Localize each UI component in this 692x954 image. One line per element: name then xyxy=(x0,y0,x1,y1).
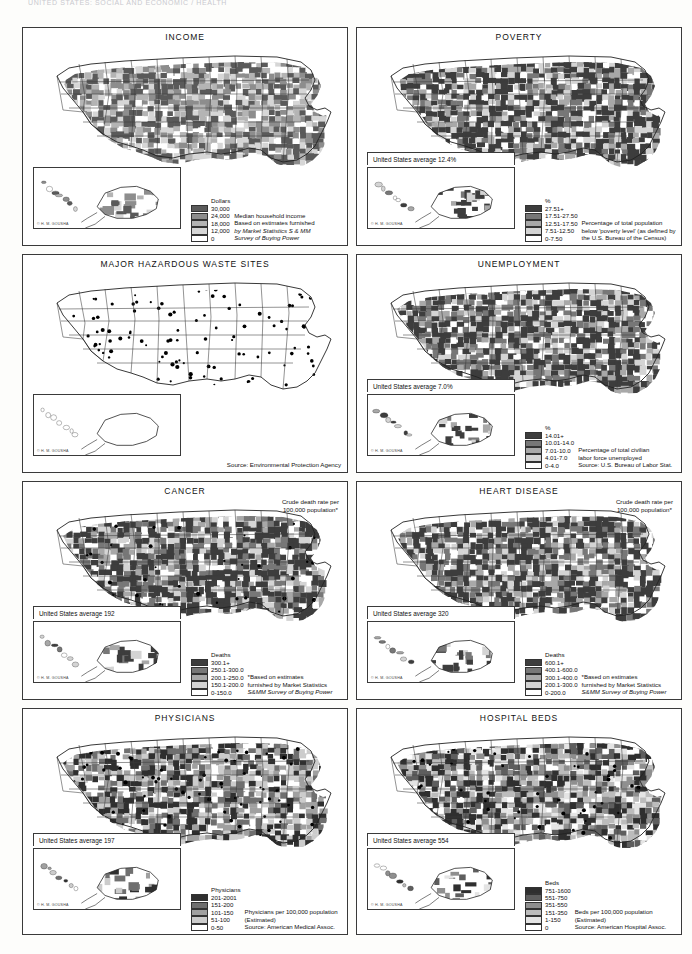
legend-row: 24,000 xyxy=(191,212,230,219)
map-canvas[interactable]: © H. M. GOUSHA xyxy=(23,269,347,472)
legend-class-label: 600.1+ xyxy=(545,659,564,666)
copyright-mark: © H. M. GOUSHA xyxy=(37,449,69,453)
legend-swatch xyxy=(525,924,542,931)
page-header: UNITED STATES: SOCIAL AND ECONOMIC / HEA… xyxy=(28,0,227,9)
legend-swatch xyxy=(525,916,542,923)
legend-rows: 600.1+400.1-600.0300.1-400.0200.1-300.00… xyxy=(525,659,578,696)
legend-class-label: 12.51-17.50 xyxy=(545,220,578,227)
panel-title-income: INCOME xyxy=(23,32,347,42)
alaska-hawaii-inset: © H. M. GOUSHA xyxy=(33,621,181,683)
legend-swatch xyxy=(191,205,208,212)
inset-map-graphic xyxy=(368,395,514,455)
map-panel-hospital-beds[interactable]: HOSPITAL BEDS United States average 554 xyxy=(356,708,682,935)
legend-swatch xyxy=(525,674,542,681)
legend-swatch xyxy=(525,227,542,234)
legend-swatch xyxy=(191,909,208,916)
map-panel-income[interactable]: INCOME © H. M. GO xyxy=(22,27,348,246)
legend-swatch xyxy=(191,902,208,909)
legend-row: 351-550 xyxy=(525,901,571,908)
legend-description: *Based on estimatesfurnished by Market S… xyxy=(582,673,667,696)
legend-swatch xyxy=(525,667,542,674)
map-legend: Physicians 201-2001151-200101-15051-1000… xyxy=(191,886,338,931)
legend-swatch xyxy=(525,447,542,454)
legend-class-label: 7.01-10.0 xyxy=(545,447,571,454)
legend-row: 12,000 xyxy=(191,227,230,234)
legend-description: Physicians per 100,000 population(Estima… xyxy=(245,908,338,931)
legend-class-label: 24,000 xyxy=(211,212,230,219)
legend-row: 17.51-27.50 xyxy=(525,212,578,219)
legend-class-label: 0 xyxy=(211,235,214,242)
legend-swatch xyxy=(525,454,542,461)
legend-row: 0 xyxy=(191,235,230,242)
panel-title-unemployment: UNEMPLOYMENT xyxy=(357,259,681,269)
legend-class-label: 0 xyxy=(545,924,548,931)
legend-swatch-column: % 14.01+10.01-14.07.01-10.04.01-7.00-4.0 xyxy=(525,424,574,469)
panel-source-note: Source: Environmental Protection Agency xyxy=(227,461,341,468)
legend-class-label: 0-50 xyxy=(211,924,223,931)
legend-description: Beds per 100,000 population(Estimated)So… xyxy=(575,908,666,931)
us-lower48-map xyxy=(33,271,333,403)
legend-row: 14.01+ xyxy=(525,432,574,439)
legend-rows: 27.51+17.51-27.5012.51-17.507.51-12.500-… xyxy=(525,205,578,242)
legend-class-label: 4.01-7.0 xyxy=(545,454,567,461)
legend-unit-label: % xyxy=(525,424,574,431)
legend-unit-label: % xyxy=(525,197,578,204)
legend-row: 400.1-600.0 xyxy=(525,666,578,673)
us-average-label: United States average 12.4% xyxy=(367,152,515,165)
legend-row: 0-50 xyxy=(191,924,241,931)
legend-swatch-column: Beds 751-1600551-750351-550151-3501-1500 xyxy=(525,879,571,931)
legend-class-label: 101-150 xyxy=(211,909,233,916)
alaska-hawaii-inset: © H. M. GOUSHA xyxy=(367,848,515,910)
legend-class-label: 351-550 xyxy=(545,901,567,908)
legend-class-label: 400.1-600.0 xyxy=(545,666,578,673)
legend-swatch xyxy=(525,432,542,439)
panel-title-cancer: CANCER xyxy=(23,486,347,496)
legend-row: 7.51-12.50 xyxy=(525,227,578,234)
panel-title-heart-disease: HEART DISEASE xyxy=(357,486,681,496)
copyright-mark: © H. M. GOUSHA xyxy=(37,903,69,907)
legend-row: 751-1600 xyxy=(525,887,571,894)
map-panel-hazardous-waste[interactable]: MAJOR HAZARDOUS WASTE SITES xyxy=(22,254,348,473)
legend-swatch xyxy=(525,220,542,227)
map-panel-cancer[interactable]: CANCER Crude death rate per100,000 popul… xyxy=(22,481,348,700)
map-panel-physicians[interactable]: PHYSICIANS United States average 197 xyxy=(22,708,348,935)
map-panel-poverty[interactable]: POVERTY United States average 12.4% xyxy=(356,27,682,246)
legend-class-label: 7.51-12.50 xyxy=(545,227,574,234)
legend-class-label: 18,000 xyxy=(211,220,230,227)
panel-title-hospital-beds: HOSPITAL BEDS xyxy=(357,713,681,723)
legend-rows: 751-1600551-750351-550151-3501-1500 xyxy=(525,887,571,931)
legend-swatch xyxy=(191,659,208,666)
legend-swatch xyxy=(525,205,542,212)
legend-description: Median household incomeBased on estimate… xyxy=(234,212,314,242)
legend-row: 12.51-17.50 xyxy=(525,220,578,227)
legend-row: 151-350 xyxy=(525,909,571,916)
legend-row: 18,000 xyxy=(191,220,230,227)
legend-row: 1-150 xyxy=(525,916,571,923)
legend-swatch xyxy=(525,440,542,447)
map-panel-heart-disease[interactable]: HEART DISEASE Crude death rate per100,00… xyxy=(356,481,682,700)
legend-class-label: 17.51-27.50 xyxy=(545,212,578,219)
legend-swatch xyxy=(191,235,208,242)
legend-rows: 14.01+10.01-14.07.01-10.04.01-7.00-4.0 xyxy=(525,432,574,469)
legend-swatch-column: Dollars 30,00024,00018,00012,0000 xyxy=(191,197,230,242)
legend-row: 0-7.50 xyxy=(525,235,578,242)
panel-title-physicians: PHYSICIANS xyxy=(23,713,347,723)
legend-class-label: 200.1-250.0 xyxy=(211,674,244,681)
legend-row: 151-200 xyxy=(191,901,241,908)
inset-map-graphic xyxy=(34,622,180,682)
copyright-mark: © H. M. GOUSHA xyxy=(37,222,69,226)
legend-class-label: 300.1+ xyxy=(211,659,230,666)
us-average-label: United States average 192 xyxy=(33,606,181,619)
legend-swatch xyxy=(191,220,208,227)
legend-row: 0-150.0 xyxy=(191,689,244,696)
legend-row: 7.01-10.0 xyxy=(525,447,574,454)
legend-class-label: 51-100 xyxy=(211,916,230,923)
us-average-label: United States average 197 xyxy=(33,833,181,846)
legend-row: 0-200.0 xyxy=(525,689,578,696)
legend-swatch xyxy=(191,667,208,674)
legend-swatch xyxy=(191,227,208,234)
map-panel-unemployment[interactable]: UNEMPLOYMENT United States average 7.0% xyxy=(356,254,682,473)
legend-class-label: 14.01+ xyxy=(545,432,564,439)
legend-unit-label: Physicians xyxy=(191,886,241,893)
panel-title-poverty: POVERTY xyxy=(357,32,681,42)
